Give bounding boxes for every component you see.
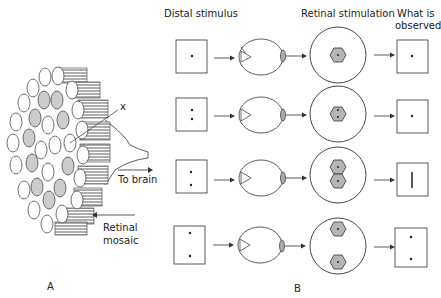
to-brain-label: To brain	[118, 174, 157, 185]
retina-3	[310, 147, 366, 203]
distal-stimulus-box	[174, 226, 205, 264]
distal-stimulus-box	[176, 98, 207, 131]
observed-box	[395, 228, 427, 267]
distal-stimulus-box	[176, 160, 207, 193]
retina-1	[310, 27, 366, 83]
retina-2	[310, 86, 366, 142]
retinal-mosaic-label-2: mosaic	[103, 235, 138, 246]
panel-b-label: B	[294, 283, 301, 294]
panel-a-label: A	[47, 281, 54, 292]
retinal-mosaic-label-1: Retinal	[103, 222, 138, 233]
retinal-mosaic-illustration	[7, 67, 153, 235]
retina-4	[310, 218, 366, 274]
header-observed-1: What is	[397, 8, 434, 19]
arrow-right-icon	[148, 167, 153, 173]
row-1	[176, 39, 307, 75]
header-retinal-stimulation: Retinal stimulation	[301, 8, 395, 19]
header-observed-2: observed	[395, 20, 441, 31]
marker-x-label: x	[120, 101, 126, 112]
header-distal-stimulus: Distal stimulus	[164, 8, 238, 19]
